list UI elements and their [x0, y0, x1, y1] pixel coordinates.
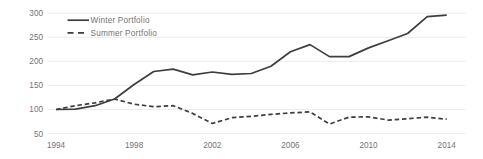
legend-label-summer: Summer Portfolio: [91, 29, 158, 38]
summer-portfolio-line: [56, 99, 447, 124]
x-tick-label-1994: 1994: [47, 141, 66, 150]
x-tick-label-2002: 2002: [203, 141, 222, 150]
x-tick-label-2010: 2010: [359, 141, 378, 150]
y-tick-label-200: 200: [29, 57, 43, 66]
x-tick-label-1998: 1998: [125, 141, 144, 150]
y-tick-label-150: 150: [29, 81, 43, 90]
x-tick-label-2006: 2006: [281, 141, 300, 150]
seasonal-portfolio-line-chart: 50100150200250300 1994199820022006201020…: [0, 0, 483, 159]
x-axis-tick-labels: 199419982002200620102014: [47, 141, 456, 150]
x-tick-label-2014: 2014: [438, 141, 457, 150]
legend-label-winter: Winter Portfolio: [91, 16, 150, 25]
legend: Winter Portfolio Summer Portfolio: [68, 16, 158, 38]
chart-canvas: 50100150200250300 1994199820022006201020…: [0, 0, 483, 159]
y-tick-label-300: 300: [29, 9, 43, 18]
y-tick-label-100: 100: [29, 105, 43, 114]
y-tick-label-250: 250: [29, 33, 43, 42]
y-axis-tick-labels: 50100150200250300: [29, 9, 43, 138]
y-tick-label-50: 50: [34, 130, 44, 139]
